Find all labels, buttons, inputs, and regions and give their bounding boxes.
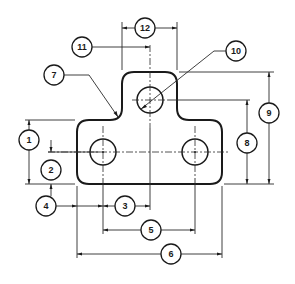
balloon-9-label: 9 <box>266 108 271 118</box>
balloon-11-label: 11 <box>77 42 87 52</box>
balloon-1-label: 1 <box>26 135 31 145</box>
balloon-3: 3 <box>115 196 135 216</box>
balloon-9: 9 <box>259 103 279 123</box>
balloon-10-label: 10 <box>231 46 241 56</box>
balloon-2: 2 <box>41 160 61 180</box>
balloon-11: 11 <box>72 37 92 57</box>
balloon-7: 7 <box>44 65 64 85</box>
balloon-7-label: 7 <box>51 70 56 80</box>
balloon-5: 5 <box>141 220 161 240</box>
balloon-8: 8 <box>237 133 257 153</box>
center-lines <box>48 45 228 178</box>
balloon-8-label: 8 <box>244 138 249 148</box>
balloon-4: 4 <box>36 196 56 216</box>
technical-drawing: 1 2 3 4 5 6 7 8 9 10 11 12 <box>0 0 295 284</box>
balloon-12-label: 12 <box>140 23 150 33</box>
balloon-5-label: 5 <box>148 225 153 235</box>
balloon-2-label: 2 <box>48 165 53 175</box>
balloon-10: 10 <box>226 41 246 61</box>
balloon-1: 1 <box>19 130 39 150</box>
balloon-6-label: 6 <box>168 249 173 259</box>
balloon-4-label: 4 <box>43 201 48 211</box>
balloon-6: 6 <box>161 244 181 264</box>
balloon-3-label: 3 <box>122 201 127 211</box>
balloon-12: 12 <box>135 18 155 38</box>
